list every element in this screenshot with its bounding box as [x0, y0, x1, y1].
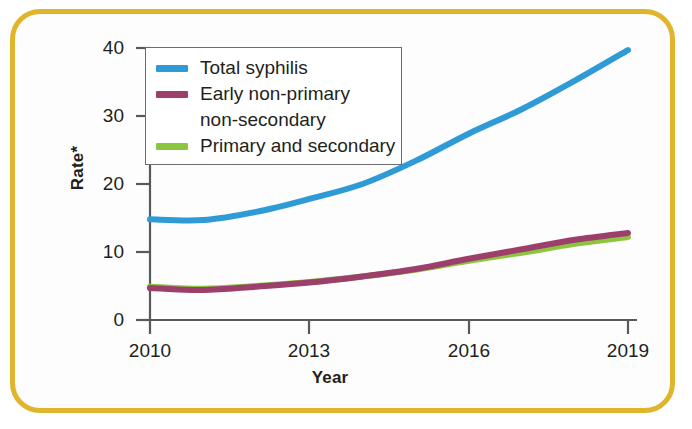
y-tick-label-0: 0	[78, 309, 124, 331]
y-axis-title: Rate*	[68, 123, 88, 213]
x-tick-label-2013: 2013	[274, 340, 344, 362]
legend-label-primary-secondary: Primary and secondary	[200, 135, 395, 157]
x-tick-label-2016: 2016	[434, 340, 504, 362]
legend-swatch-primary-secondary	[156, 143, 188, 150]
legend-swatch-total-syphilis	[156, 65, 188, 72]
series-line-early-non-primary-non-secondary	[150, 233, 628, 290]
x-axis-title: Year	[270, 368, 390, 388]
x-tick-label-2019: 2019	[593, 340, 663, 362]
chart-page: 0 10 20 30 40 2010 2013 2016 2019 Rate* …	[0, 0, 692, 429]
legend-item-early-non-primary-cont: non-secondary	[156, 107, 401, 133]
legend-label-early-non-primary-cont: non-secondary	[200, 109, 326, 131]
legend-swatch-early-non-primary	[156, 91, 188, 98]
y-tick-label-10: 10	[78, 241, 124, 263]
legend-item-total-syphilis: Total syphilis	[156, 55, 401, 81]
x-axis-ticks	[150, 320, 628, 334]
y-tick-label-40: 40	[78, 37, 124, 59]
legend-item-early-non-primary: Early non-primary	[156, 81, 401, 107]
legend-item-primary-secondary: Primary and secondary	[156, 133, 401, 159]
legend-label-early-non-primary: Early non-primary	[200, 83, 350, 105]
x-tick-label-2010: 2010	[115, 340, 185, 362]
chart-legend: Total syphilis Early non-primary non-sec…	[145, 47, 402, 165]
legend-label-total-syphilis: Total syphilis	[200, 57, 308, 79]
